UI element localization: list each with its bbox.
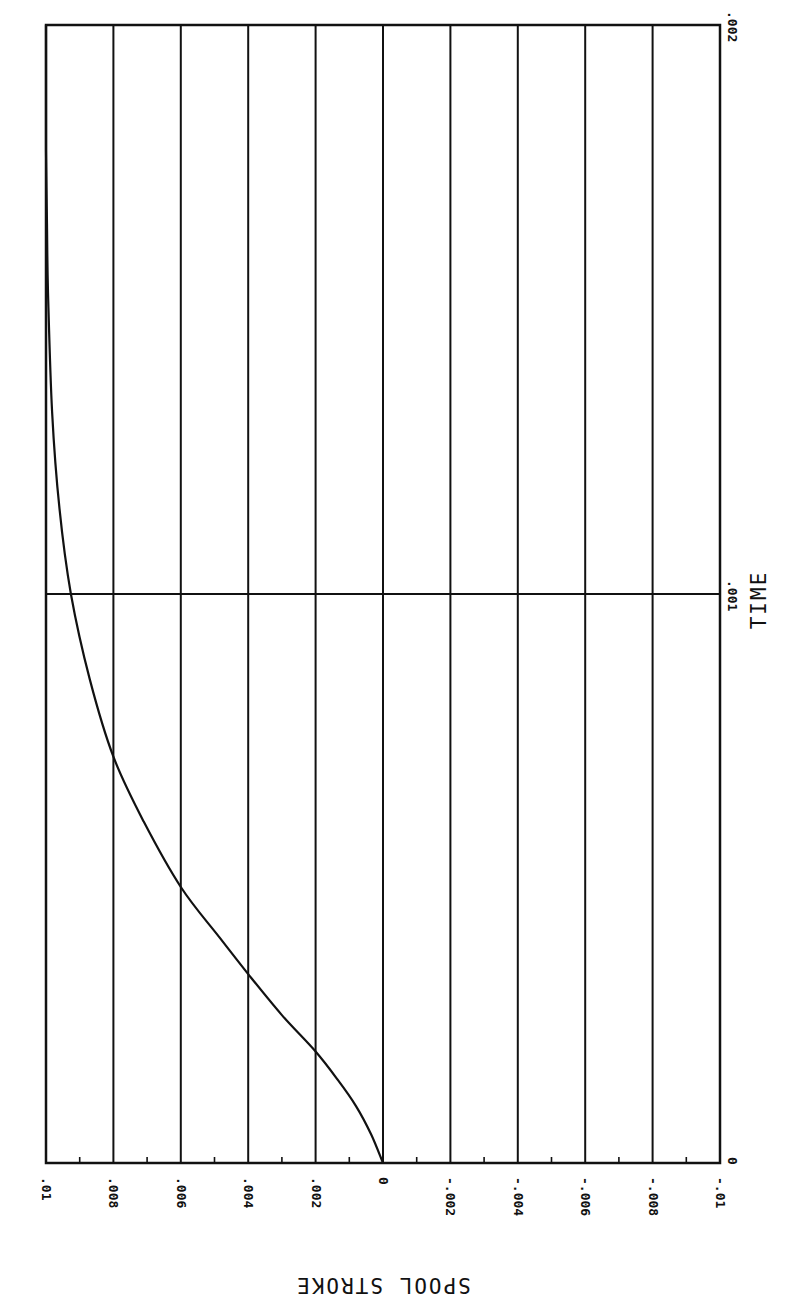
stroke-tick-label: .01 [39, 1177, 54, 1201]
stroke-tick-label: -.008 [646, 1177, 661, 1216]
time-tick-label: .002 [725, 11, 740, 42]
stroke-tick-label: .008 [106, 1177, 121, 1208]
time-tick-labels: 0.001.002 [725, 11, 740, 1165]
stroke-tick-label: -.01 [713, 1177, 728, 1208]
stroke-tick-labels: .01.008.006.004.0020-.002-.004-.006-.008… [39, 1177, 728, 1216]
stroke-tick-label: -.006 [578, 1177, 593, 1216]
stroke-tick-label: .006 [174, 1177, 189, 1208]
spool-stroke-chart: .01.008.006.004.0020-.002-.004-.006-.008… [0, 0, 790, 1310]
grid-lines [46, 25, 720, 1163]
time-axis-title: TIME [747, 571, 771, 630]
spool-stroke-axis-title: SPOOL STROKE [295, 1273, 471, 1297]
stroke-tick-label: -.004 [511, 1177, 526, 1216]
time-tick-label: .001 [725, 580, 740, 611]
time-tick-label: 0 [725, 1157, 740, 1165]
stroke-tick-label: .004 [241, 1177, 256, 1208]
stroke-tick-label: 0 [376, 1177, 391, 1185]
stroke-tick-label: -.002 [443, 1177, 458, 1216]
stroke-tick-label: .002 [309, 1177, 324, 1208]
